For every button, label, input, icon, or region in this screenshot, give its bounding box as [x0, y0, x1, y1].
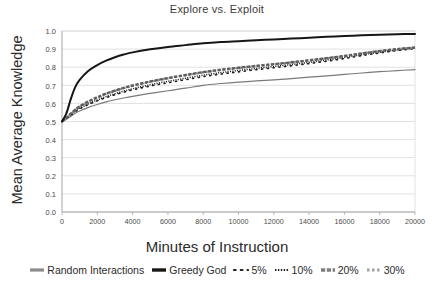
- x-tick-label-6: 12000: [264, 217, 284, 226]
- x-tick-label-8: 16000: [334, 217, 354, 226]
- legend-label-20-percent: 20%: [338, 264, 359, 276]
- y-tick-label-1: 0.1: [46, 190, 56, 199]
- y-tick-label-10: 1.0: [46, 27, 56, 36]
- y-tick-label-8: 0.8: [46, 63, 56, 72]
- x-tick-label-9: 18000: [370, 217, 390, 226]
- legend-label-5-percent: 5%: [251, 264, 266, 276]
- chart-screenshot: Explore vs. Exploit Mean Average Knowled…: [0, 0, 434, 288]
- x-axis-label: Minutes of Instruction: [0, 238, 434, 255]
- legend-label-greedy-god: Greedy God: [169, 264, 226, 276]
- x-tick-label-5: 10000: [229, 217, 249, 226]
- legend-item-10-percent[interactable]: 10%: [274, 264, 313, 276]
- legend-item-20-percent[interactable]: 20%: [320, 264, 359, 276]
- y-tick-label-7: 0.7: [46, 82, 56, 91]
- y-tick-label-5: 0.5: [46, 118, 56, 127]
- x-tick-label-1: 2000: [89, 217, 105, 226]
- y-tick-label-9: 0.9: [46, 45, 56, 54]
- legend-label-30-percent: 30%: [384, 264, 405, 276]
- y-tick-label-4: 0.4: [46, 136, 56, 145]
- legend-item-5-percent[interactable]: 5%: [233, 264, 266, 276]
- x-tick-label-2: 4000: [125, 217, 141, 226]
- x-tick-label-10: 20000: [405, 217, 425, 226]
- legend-marker-random-interactions: [29, 265, 45, 275]
- legend-marker-10-percent: [274, 265, 290, 275]
- legend-item-30-percent[interactable]: 30%: [366, 264, 405, 276]
- legend-label-10-percent: 10%: [292, 264, 313, 276]
- legend-item-greedy-god[interactable]: Greedy God: [151, 264, 226, 276]
- legend-marker-5-percent: [233, 265, 249, 275]
- x-tick-label-3: 6000: [160, 217, 176, 226]
- legend-marker-20-percent: [320, 265, 336, 275]
- y-tick-label-3: 0.3: [46, 154, 56, 163]
- x-tick-label-4: 8000: [195, 217, 211, 226]
- chart-legend: Random Interactions Greedy God 5% 10% 20: [0, 260, 434, 280]
- legend-marker-greedy-god: [151, 265, 167, 275]
- legend-label-random-interactions: Random Interactions: [47, 264, 144, 276]
- y-tick-label-6: 0.6: [46, 100, 56, 109]
- legend-item-random-interactions[interactable]: Random Interactions: [29, 264, 144, 276]
- legend-marker-30-percent: [366, 265, 382, 275]
- x-tick-label-7: 14000: [299, 217, 319, 226]
- y-tick-label-2: 0.2: [46, 172, 56, 181]
- y-tick-label-0: 0.0: [46, 208, 56, 217]
- x-tick-label-0: 0: [60, 217, 64, 226]
